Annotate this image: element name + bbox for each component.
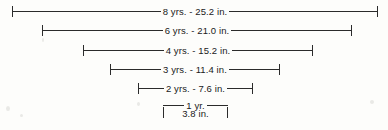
bracket-rule-right: [227, 88, 253, 89]
bracket-label: 8 yrs. - 25.2 in.: [161, 6, 230, 16]
bracket-tick-left: [110, 64, 111, 75]
bracket-tick-right: [227, 107, 228, 118]
bracket-rule-right: [207, 105, 228, 106]
bracket-label: 4 yrs. - 15.2 in.: [164, 45, 233, 55]
bracket-tick-left: [42, 25, 43, 36]
bracket-rule-right: [229, 69, 280, 70]
measurement-bracket-diagram: 8 yrs. - 25.2 in. 6 yrs. - 21.0 in. 4 yr…: [0, 0, 388, 130]
bracket-rule-right: [229, 11, 378, 12]
bracket-tick-right: [377, 6, 378, 17]
bracket-rule-right: [232, 50, 313, 51]
bracket-label: 2 yrs. - 7.6 in.: [164, 83, 227, 93]
bracket-rule-left: [110, 69, 161, 70]
bracket-tick-left: [163, 107, 164, 118]
bracket-tick-right: [351, 25, 352, 36]
bracket-rule-right: [231, 30, 352, 31]
bracket-tick-left: [83, 45, 84, 56]
scan-speckle: [6, 106, 10, 111]
bracket-rule-left: [42, 30, 163, 31]
bracket-rule-left: [138, 88, 164, 89]
bracket-line: 2 yrs. - 7.6 in.: [138, 83, 253, 94]
bracket-tick-right: [252, 83, 253, 94]
bracket-tick-right: [279, 64, 280, 75]
bracket-line: 6 yrs. - 21.0 in.: [42, 25, 352, 36]
scan-speckle: [20, 114, 23, 117]
bracket-rule-left: [163, 105, 184, 106]
bracket-tick-left: [12, 6, 13, 17]
bracket-line: 8 yrs. - 25.2 in.: [12, 6, 378, 17]
bracket-rule-left: [83, 50, 164, 51]
bracket-sublabel: 3.8 in.: [163, 108, 228, 119]
bracket-tick-left: [138, 83, 139, 94]
bracket-line: 4 yrs. - 15.2 in.: [83, 45, 313, 56]
bracket-label: 3 yrs. - 11.4 in.: [161, 64, 229, 74]
scan-speckle: [370, 100, 374, 104]
bracket-label: 6 yrs. - 21.0 in.: [163, 25, 232, 35]
bracket-tick-right: [312, 45, 313, 56]
bracket-row: 1 yr. 3.8 in.: [163, 100, 228, 130]
bracket-line: 3 yrs. - 11.4 in.: [110, 64, 280, 75]
bracket-rule-left: [12, 11, 161, 12]
